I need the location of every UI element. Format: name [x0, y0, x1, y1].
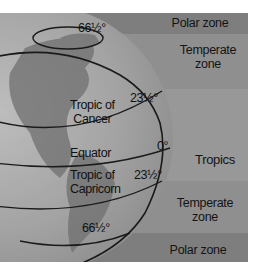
latitude-label-line: Tropic of	[70, 98, 115, 112]
cancer-name-label: Tropic of Cancer	[70, 98, 115, 126]
equator-name-label: Equator	[70, 146, 111, 160]
zone-label-polar-south: Polar zone	[148, 243, 248, 257]
zone-label-tropics: Tropics	[180, 153, 248, 167]
arctic-degree-label: 66½°	[78, 21, 106, 35]
latitude-label-line: Cancer	[70, 112, 115, 126]
equator-degree-label: 0°	[157, 139, 168, 153]
climate-zones-diagram: Polar zone Temperate zone Tropics Temper…	[0, 13, 248, 262]
zone-label-line: zone	[168, 57, 248, 71]
antarctic-degree-label: 66½°	[82, 221, 110, 235]
zone-label-line: Temperate	[168, 43, 248, 57]
zone-label-line: Temperate	[165, 196, 245, 210]
latitude-label-line: Capricorn	[70, 182, 121, 196]
zone-label-temperate-north: Temperate zone	[168, 43, 248, 71]
capricorn-degree-label: 23½°	[134, 168, 162, 182]
cancer-degree-label: 23½°	[130, 91, 158, 105]
zone-label-temperate-south: Temperate zone	[165, 196, 245, 224]
zone-label-polar-north: Polar zone	[150, 16, 248, 30]
latitude-label-line: Tropic of	[70, 168, 121, 182]
capricorn-name-label: Tropic of Capricorn	[70, 168, 121, 196]
zone-label-line: zone	[165, 210, 245, 224]
